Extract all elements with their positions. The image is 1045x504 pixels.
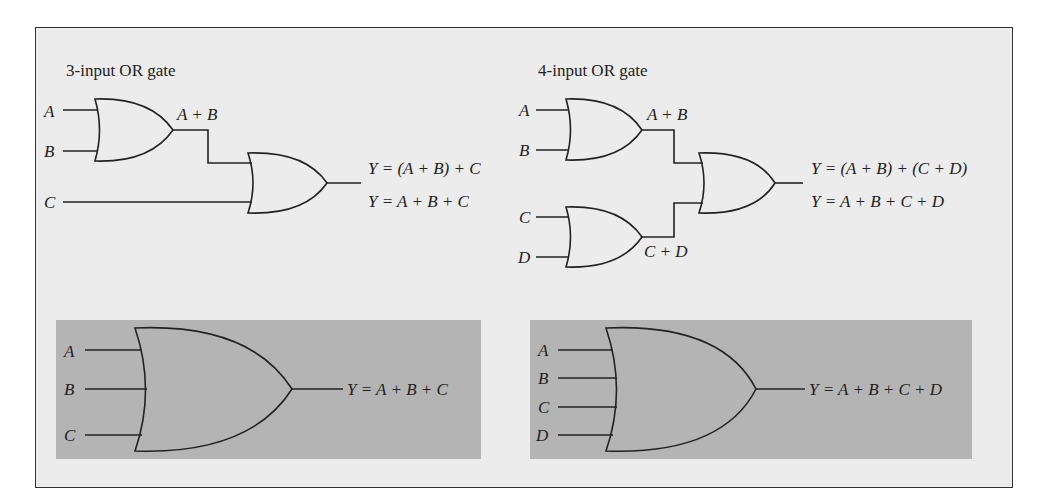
title-3input: 3-input OR gate [66,61,176,80]
symbol-input-c: C [538,398,550,417]
intermediate-a-plus-b: A + B [176,105,218,124]
input-c-label: C [44,193,56,212]
or-gate-2-4in [566,207,642,267]
symbol-input-c: C [64,426,76,445]
symbol-input-a: A [63,342,75,361]
output-expr-flat: Y = A + B + C [368,192,470,211]
input-a-label: A [43,102,55,121]
symbol-input-b: B [538,369,549,388]
symbol-output-expr: Y = A + B + C + D [809,380,943,399]
or-gate-1-3in [95,99,173,161]
input-b-label: B [519,141,530,160]
input-c-label: C [519,208,531,227]
symbol-input-b: B [64,380,75,399]
title-4input: 4-input OR gate [538,61,648,80]
intermediate-c-plus-d: C + D [644,242,688,261]
or-gate-2-3in [248,153,327,213]
input-a-label: A [518,101,530,120]
symbol-input-a: A [537,341,549,360]
symbol-input-d: D [535,426,549,445]
or-gate-diagram: 3-input OR gate A B C A + B Y = (A + B) … [0,0,1045,504]
output-expr-flat: Y = A + B + C + D [811,192,945,211]
input-b-label: B [44,142,55,161]
intermediate-a-plus-b: A + B [646,105,688,124]
output-expr-grouped: Y = (A + B) + C [368,159,481,178]
or-gate-1-4in [566,99,642,160]
input-d-label: D [517,248,531,267]
symbol-output-expr: Y = A + B + C [347,380,449,399]
or-gate-3-4in [699,153,775,213]
output-expr-grouped: Y = (A + B) + (C + D) [811,159,967,178]
